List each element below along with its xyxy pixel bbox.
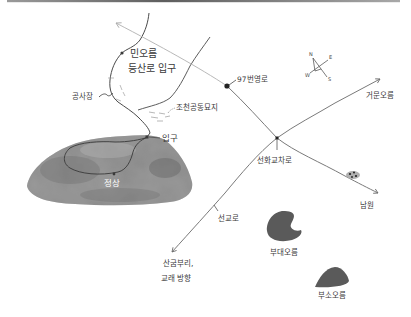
compass-east: E [329,54,332,60]
label-road-97: 97번영로 [237,74,268,84]
label-entrance: 입구 [162,133,178,143]
label-budaeoreum: 부대오름 [270,248,298,257]
mountain [27,135,192,205]
cemetery-pointer [168,108,175,113]
label-busooreum: 부소오름 [318,291,346,300]
compass-icon [310,58,328,77]
minoreum-trail [110,13,150,137]
compass-west: W [305,72,310,78]
road-97-pointer [229,80,236,85]
road-97-junction-dot [224,83,229,88]
label-cemetery: 조천공동묘지 [176,102,218,112]
label-seongyoro: 선교로 [218,214,239,223]
label-sangumburi: 산굼부리, [163,258,193,268]
construction-pointer [99,93,113,97]
compass-south: S [328,76,331,82]
compass-north: N [309,51,313,57]
label-summit: 정상 [104,178,120,188]
top-border-rule [7,0,400,2]
entrance-marker [146,136,149,139]
seongyoro-pointer [214,205,218,211]
village-cluster-icon [346,171,360,179]
label-construction: 공사장 [72,91,93,101]
label-namwon: 남원 [360,201,374,210]
summit-marker [113,173,116,176]
label-gyorae-direction: 교래 방향 [161,273,191,283]
budaeoreum-shape [267,211,302,241]
busooreum-shape [315,267,349,287]
label-minoreum: 민오름 [130,48,157,59]
label-geomunoreum: 거문오름 [366,91,394,100]
cemetery-marks [149,112,170,121]
hand-drawn-map: N E W S 민오름 등산로 입구 공사장 조천공동묘지 97번영로 거문오름… [0,0,411,317]
label-intersection: 선화교차로 [257,156,292,165]
minoreum-trailhead-dot [120,51,123,54]
label-minoreum-trailhead: 등산로 입구 [128,62,176,74]
